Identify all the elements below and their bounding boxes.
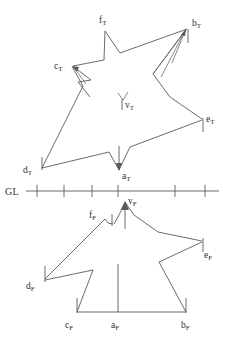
arrow-to-bT-shaft-2	[161, 29, 186, 77]
geometry-diagram: fT bT cT eT vT dT aT GL	[0, 0, 231, 342]
label-dF: dF	[26, 281, 35, 293]
label-dT: dT	[23, 165, 33, 177]
top-star-outline-right	[153, 30, 202, 119]
label-aT: aT	[122, 171, 131, 183]
label-vF: vF	[128, 196, 137, 208]
top-star-outline-top-left	[73, 31, 120, 66]
arrow-to-bT-shaft-1	[153, 29, 186, 74]
label-cT: cT	[54, 61, 63, 73]
label-fF: fF	[89, 210, 96, 222]
top-star-outline-lower-right	[119, 120, 202, 170]
label-fT: fT	[99, 15, 107, 27]
ground-line-group: GL	[5, 185, 219, 197]
label-eT: eT	[206, 114, 215, 126]
label-cF: cF	[65, 320, 73, 332]
bottom-outline-right-wing	[159, 242, 202, 312]
arrowhead-vT	[118, 92, 128, 100]
top-star-group: fT bT cT eT vT dT aT	[23, 15, 215, 183]
ground-line-label: GL	[5, 186, 19, 197]
figure-root: fT bT cT eT vT dT aT GL	[0, 0, 231, 342]
label-bT: bT	[192, 18, 202, 30]
top-star-outline-lower-left	[42, 152, 119, 170]
bottom-outline-left-wing	[45, 270, 93, 312]
bottom-outline-left-roof	[45, 219, 113, 279]
label-aF: aF	[111, 320, 119, 332]
top-star-outline	[42, 67, 83, 169]
label-vT: vT	[125, 100, 135, 112]
label-bF: bF	[181, 320, 190, 332]
bottom-house-group: vF fF eF dF cF aF bF	[26, 196, 212, 332]
label-eF: eF	[204, 250, 212, 262]
